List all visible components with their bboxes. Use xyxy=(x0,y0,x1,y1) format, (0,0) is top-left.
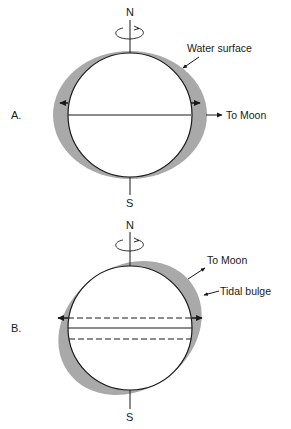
panel-b: N S To Moon Tidal bulge B. xyxy=(11,219,271,423)
north-label: N xyxy=(126,219,134,231)
water-surface-leader-icon xyxy=(183,57,199,68)
south-label: S xyxy=(126,197,133,209)
to-moon-label: To Moon xyxy=(207,254,247,266)
south-label: S xyxy=(126,411,133,423)
north-label: N xyxy=(126,6,134,18)
tidal-bulge-diagram: N S To Moon Water surface A. N S xyxy=(0,0,291,429)
panel-a-label: A. xyxy=(11,109,21,121)
panel-a: N S To Moon Water surface A. xyxy=(11,6,266,209)
tidal-bulge-leader-icon xyxy=(204,291,219,295)
panel-b-label: B. xyxy=(11,322,21,334)
tidal-bulge-label: Tidal bulge xyxy=(220,285,271,297)
to-moon-arrow-icon xyxy=(188,268,205,279)
water-surface-label: Water surface xyxy=(187,42,252,54)
to-moon-label: To Moon xyxy=(226,109,266,121)
